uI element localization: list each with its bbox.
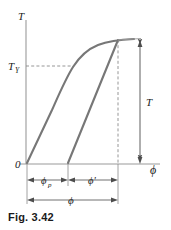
elastic-span-arrow-left bbox=[68, 178, 75, 183]
unloading-line bbox=[68, 40, 118, 163]
axis-group bbox=[20, 20, 160, 164]
plastic-span-label: ϕ bbox=[41, 175, 47, 186]
plastic-span-arrow-right bbox=[61, 178, 68, 183]
elastic-span-arrow-right bbox=[111, 178, 118, 183]
x-axis-label: ϕ bbox=[150, 163, 156, 177]
elastic-span-dimension: ϕ' bbox=[68, 175, 118, 186]
origin-label: 0 bbox=[15, 158, 21, 170]
total-span-label: ϕ bbox=[68, 194, 74, 206]
figure-caption: Fig. 3.42 bbox=[8, 211, 54, 223]
torque-span-arrow-bottom bbox=[138, 157, 143, 164]
yield-torque-label: T Y bbox=[8, 60, 20, 75]
figure-container: T ϕ 0 T Y T ϕ p bbox=[0, 0, 171, 230]
total-span-arrow-left bbox=[27, 198, 34, 203]
plastic-span-arrow-left bbox=[27, 178, 34, 183]
plastic-span-label-sub: p bbox=[47, 181, 52, 189]
curve-group bbox=[27, 39, 141, 164]
torque-span-arrow-top bbox=[138, 40, 143, 47]
plastic-span-dimension: ϕ p bbox=[27, 175, 68, 189]
total-span-arrow-right bbox=[111, 198, 118, 203]
y-axis-label: T bbox=[18, 10, 25, 22]
yield-torque-label-base: T bbox=[8, 60, 15, 72]
torque-span-dimension: T bbox=[138, 40, 153, 164]
guide-group bbox=[26, 40, 118, 164]
torque-twist-chart: T ϕ 0 T Y T ϕ p bbox=[0, 0, 171, 230]
torque-span-label: T bbox=[146, 96, 153, 108]
total-span-dimension: ϕ bbox=[27, 194, 118, 206]
yield-torque-label-sub: Y bbox=[15, 66, 20, 75]
elastic-span-label: ϕ' bbox=[88, 175, 96, 186]
